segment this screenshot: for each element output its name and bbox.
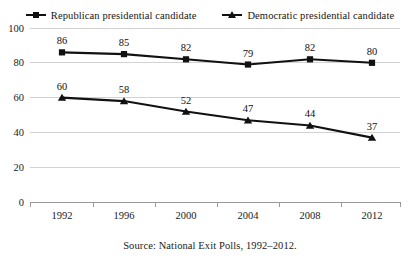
x-axis-tick-labels: 199219962000200420082012	[52, 210, 383, 221]
legend-marker-square-icon	[26, 10, 46, 20]
data-point-label: 52	[181, 95, 192, 106]
data-point-label: 82	[305, 42, 316, 53]
x-axis-tick-label: 1992	[52, 210, 73, 221]
x-axis-tick-label: 2004	[238, 210, 260, 221]
y-axis-tick-label: 20	[14, 162, 25, 173]
x-axis-tick-label: 2008	[300, 210, 321, 221]
data-point-label: 80	[367, 46, 378, 57]
y-axis-tick-label: 40	[14, 127, 25, 138]
legend-item-democratic[interactable]: Democratic presidential candidate	[222, 10, 394, 21]
x-axis-tick-label: 1996	[114, 210, 135, 221]
data-point-label: 82	[181, 42, 192, 53]
data-point-label: 85	[119, 37, 130, 48]
data-point-marker[interactable]	[369, 60, 375, 66]
data-point-label: 60	[57, 81, 68, 92]
legend-label-democratic: Democratic presidential candidate	[247, 10, 394, 21]
chart-legend: Republican presidential candidate Democr…	[0, 6, 420, 24]
data-point-label: 44	[305, 108, 316, 119]
legend-label-republican: Republican presidential candidate	[51, 10, 197, 21]
x-axis-tick-label: 2000	[176, 210, 197, 221]
series-line-democratic	[62, 98, 372, 138]
data-point-marker[interactable]	[245, 61, 251, 67]
x-axis-tick-label: 2012	[362, 210, 383, 221]
x-axis-group	[30, 202, 400, 207]
chart-canvas: 020406080100 868582798280605852474437 19…	[0, 24, 420, 224]
y-axis-tick-label: 100	[8, 24, 24, 34]
data-point-label: 86	[57, 35, 68, 46]
y-axis-tick-label: 80	[14, 57, 25, 68]
data-point-label: 58	[119, 84, 130, 95]
data-point-label: 37	[367, 121, 378, 132]
y-axis-tick-label: 60	[14, 92, 25, 103]
data-point-marker[interactable]	[307, 56, 313, 62]
y-axis-tick-label: 0	[19, 197, 24, 208]
data-point-label: 79	[243, 48, 254, 59]
source-caption: Source: National Exit Polls, 1992–2012.	[0, 240, 420, 251]
legend-marker-triangle-icon	[222, 10, 242, 20]
chart-figure: Republican presidential candidate Democr…	[0, 0, 420, 262]
y-axis-ticks: 020406080100	[8, 24, 24, 208]
legend-item-republican[interactable]: Republican presidential candidate	[26, 10, 197, 21]
data-point-label: 47	[243, 103, 254, 114]
data-point-marker[interactable]	[59, 49, 65, 55]
plot-area: 020406080100 868582798280605852474437 19…	[0, 24, 420, 224]
data-point-marker[interactable]	[183, 56, 189, 62]
data-labels-group: 868582798280605852474437	[57, 35, 378, 131]
data-point-marker[interactable]	[121, 51, 127, 57]
